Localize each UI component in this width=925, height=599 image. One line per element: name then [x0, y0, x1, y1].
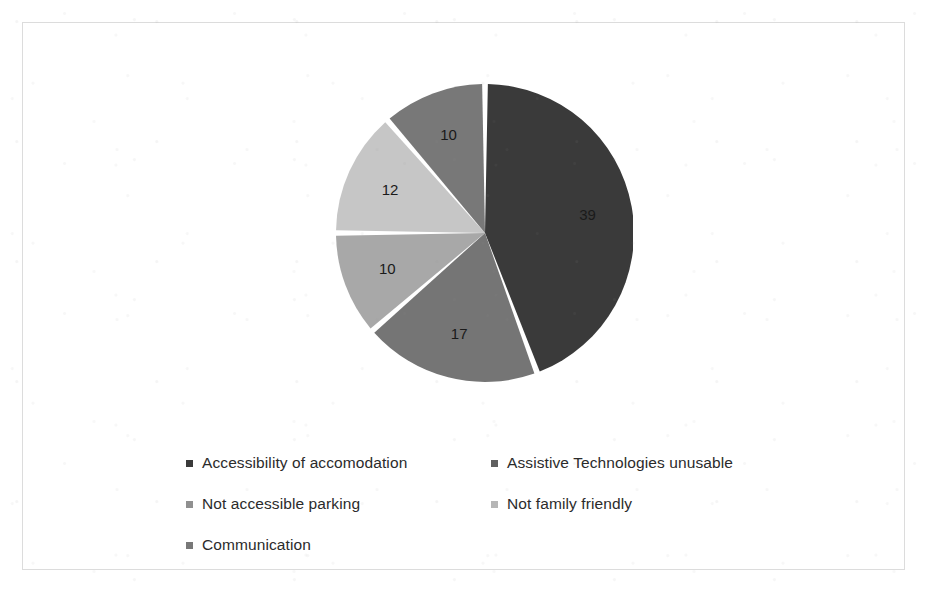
legend-swatch-icon — [186, 460, 193, 467]
legend-row: Accessibility of accomodation Assistive … — [186, 455, 786, 496]
legend-item-label: Accessibility of accomodation — [202, 455, 407, 471]
legend-row: Not accessible parking Not family friend… — [186, 496, 786, 537]
legend-row: Communication — [186, 537, 786, 578]
legend-item-not-accessible-parking[interactable]: Not accessible parking — [186, 496, 491, 512]
legend-item-accessibility-of-accomodation[interactable]: Accessibility of accomodation — [186, 455, 491, 471]
legend-swatch-icon — [491, 501, 498, 508]
pie-slice-data-label: 10 — [440, 126, 457, 143]
legend-item-label: Not family friendly — [507, 496, 632, 512]
legend-item-assistive-technologies-unusable[interactable]: Assistive Technologies unusable — [491, 455, 786, 471]
chart-legend: Accessibility of accomodation Assistive … — [186, 455, 786, 578]
pie-slice-data-label: 39 — [579, 206, 596, 223]
legend-item-communication[interactable]: Communication — [186, 537, 491, 553]
pie-slice-data-label: 12 — [382, 181, 399, 198]
legend-swatch-icon — [186, 501, 193, 508]
pie-slice-data-label: 10 — [379, 260, 396, 277]
pie-slice-group — [336, 84, 633, 382]
legend-item-label: Not accessible parking — [202, 496, 360, 512]
chart-frame: 3917101210 Accessibility of accomodation… — [22, 22, 905, 570]
legend-item-label: Assistive Technologies unusable — [507, 455, 733, 471]
pie-chart: 3917101210 — [333, 81, 633, 406]
pie-slice-data-label: 17 — [451, 325, 468, 342]
legend-item-not-family-friendly[interactable]: Not family friendly — [491, 496, 786, 512]
pie-chart-svg: 3917101210 — [333, 81, 633, 406]
legend-swatch-icon — [186, 542, 193, 549]
legend-swatch-icon — [491, 460, 498, 467]
legend-item-label: Communication — [202, 537, 311, 553]
